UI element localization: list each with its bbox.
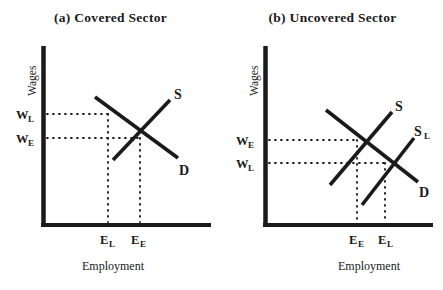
panel-uncovered-sector: (b) Uncovered Sector [222, 0, 443, 290]
chart-a-guides [47, 114, 140, 222]
xtick-EL-main: E [100, 233, 108, 247]
chart-a-xtick-EE: E E [131, 233, 146, 249]
chart-b-supply-curve [330, 112, 392, 185]
chart-a-ytick-WL: W L [16, 108, 34, 124]
panel-covered-sector: (a) Covered Sector [0, 0, 221, 290]
chart-a-label-S: S [174, 87, 182, 102]
ytick-b-WL-sub: L [248, 163, 254, 173]
chart-b-label-S: S [395, 99, 403, 114]
chart-b-xtick-EL: E L [378, 233, 393, 249]
chart-a-xaxis-label: Employment [82, 259, 145, 273]
chart-b-svg: S S L D W E W L E E E L [222, 0, 443, 290]
xtick-b-EE-main: E [349, 233, 357, 247]
chart-b-xaxis-label: Employment [338, 259, 401, 273]
figure-root: (a) Covered Sector [0, 0, 443, 290]
chart-b-label-D: D [419, 185, 429, 200]
chart-a-axes [41, 46, 211, 227]
chart-b-ytick-WL: W L [236, 157, 254, 173]
xtick-EE-sub: E [140, 239, 146, 249]
ytick-WE-sub: E [28, 138, 34, 148]
chart-a-svg: S D W L W E E L E E Wages Employment [0, 0, 221, 290]
chart-b-xtick-EE: E E [349, 233, 364, 249]
chart-b-label-SL-sub: L [424, 131, 430, 141]
xtick-b-EL-main: E [378, 233, 386, 247]
chart-b-label-SL-main: S [414, 124, 422, 139]
xtick-b-EE-sub: E [358, 239, 364, 249]
chart-b-ytick-WE: W E [236, 134, 254, 150]
chart-a-xtick-EL: E L [100, 233, 115, 249]
ytick-WL-sub: L [28, 114, 34, 124]
chart-a-ytick-WE: W E [16, 132, 34, 148]
chart-a-yaxis-label: Wages [26, 65, 39, 96]
chart-b-yaxis-label: Wages [248, 65, 261, 96]
chart-a-label-D: D [179, 163, 189, 178]
xtick-b-EL-sub: L [387, 239, 393, 249]
ytick-b-WE-sub: E [248, 140, 254, 150]
chart-b-axes [263, 46, 433, 227]
xtick-EL-sub: L [109, 239, 115, 249]
chart-b-label-SL: S L [414, 124, 430, 141]
chart-b-guides [269, 140, 385, 222]
xtick-EE-main: E [131, 233, 139, 247]
